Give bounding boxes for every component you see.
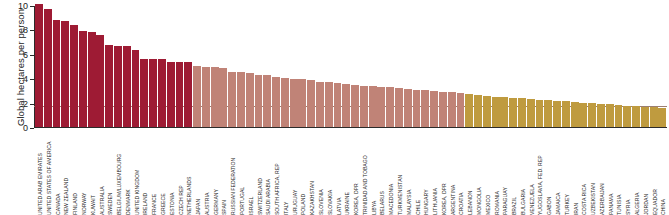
bar (132, 50, 140, 127)
bar (228, 72, 236, 128)
x-axis-category-label: BELGIUM/LUXEMBOURG (117, 154, 122, 215)
x-axis-category-label: UNITED STATES OF AMERICA (47, 142, 52, 215)
bar (360, 86, 368, 127)
bar (474, 95, 482, 127)
bar (193, 66, 201, 127)
x-axis-category-label: PANAMA (609, 194, 614, 215)
bar (219, 68, 227, 127)
x-axis-category-label: MACEDONIA (389, 184, 394, 215)
x-axis-category-label: DENMARK (126, 189, 131, 215)
y-axis-title: Global hectares per person (15, 4, 26, 132)
bar (518, 98, 526, 127)
x-axis-category-label: ARGENTINA (451, 185, 456, 215)
bar (421, 90, 429, 127)
x-axis-category-label: JAMAICA (556, 193, 561, 215)
x-axis-category-label: SAUDI ARABIA (266, 179, 271, 215)
bar (35, 4, 43, 127)
x-axis-category-label: JAPAN (196, 199, 201, 215)
bar (483, 96, 491, 127)
bar (606, 104, 614, 127)
bar (281, 78, 289, 127)
x-axis-category-label: FINLAND (73, 193, 78, 215)
x-axis-category-label: HUNGARY (424, 189, 429, 215)
bar (176, 62, 184, 127)
ecological-footprint-bar-chart: Global hectares per person 0246810 UNITE… (0, 0, 669, 215)
bar (61, 21, 69, 127)
bar (149, 59, 157, 127)
bar (255, 75, 263, 127)
bar (544, 100, 552, 127)
x-axis-category-label: TUNISIA (617, 195, 622, 215)
bar (562, 101, 570, 127)
bar (395, 88, 403, 127)
x-axis-category-label: AUSTRALIA (99, 186, 104, 215)
x-axis-category-label: BULGARIA (521, 189, 526, 215)
x-axis-category-label: AUSTRIA (205, 193, 210, 215)
bar (650, 107, 658, 127)
x-axis-category-label: UZBEKISTAN (591, 183, 596, 215)
x-axis-category-label: BELARUS (380, 191, 385, 215)
y-axis-tick-label: 6 (23, 50, 28, 60)
x-axis-category-label: UNITED ARAB EMIRATES (38, 153, 43, 215)
bar (623, 106, 631, 127)
x-axis-category-label: ITALY (284, 201, 289, 215)
bar (571, 102, 579, 127)
x-axis-category-label: UKRAINE (345, 192, 350, 215)
x-axis-category-label: LITHUANIA (433, 188, 438, 215)
bar (246, 73, 254, 127)
bar (307, 80, 315, 127)
bar (413, 90, 421, 127)
bar (88, 32, 96, 127)
x-axis-category-label: NETHERLANDS (187, 177, 192, 215)
x-axis-category-label: KOREA, DPR (354, 183, 359, 215)
bar (351, 85, 359, 127)
plot-area: 0246810 (34, 6, 667, 128)
bar (509, 98, 517, 127)
bar (500, 97, 508, 127)
y-axis-tick-label: 2 (23, 99, 28, 109)
bar (369, 86, 377, 127)
x-axis-category-label: EQUADOR (652, 189, 657, 215)
bar (404, 89, 412, 127)
x-axis-category-label: TURKEY (565, 194, 570, 215)
x-axis-category-label: TRINIDAD AND TOBAGO (363, 155, 368, 215)
x-axis-category-label: ALGERIA (635, 193, 640, 215)
bar (96, 35, 104, 127)
x-axis-category-label: CHINA (661, 199, 666, 215)
y-axis-tick-label: 10 (18, 1, 28, 11)
x-axis-category-label: VENEZUELA (530, 184, 535, 215)
x-axis-category-label: KOREA, DPR (442, 183, 447, 215)
bar (211, 67, 219, 127)
x-axis-category-label: SOUTH AFRICA, REP (275, 163, 280, 215)
bar (237, 72, 245, 127)
x-axis-category-label: ESTONIA (170, 192, 175, 215)
x-axis-category-label: GERMANY (214, 189, 219, 215)
bar (536, 100, 544, 127)
y-axis-tick-mark (30, 55, 34, 56)
x-axis-category-label: SWEDEN (108, 192, 113, 215)
bar (439, 92, 447, 127)
y-axis-tick-label: 4 (23, 74, 28, 84)
x-axis-line (34, 127, 667, 128)
bar (597, 104, 605, 127)
x-axis-category-label: PARAGUAY (503, 187, 508, 215)
bar (272, 77, 280, 127)
x-axis-category-label: LEBANON (468, 190, 473, 215)
bar (79, 31, 87, 127)
y-axis-tick-mark (30, 104, 34, 105)
bar (658, 108, 666, 127)
x-axis-category-label: KUWAIT (91, 195, 96, 215)
bar (553, 101, 561, 127)
bar (316, 82, 324, 127)
x-axis-category-label: ROMANIA (494, 191, 499, 215)
bar (105, 45, 113, 127)
x-axis-category-label: CZECH REP (178, 185, 183, 215)
x-axis-category-label: LIBYA (372, 201, 377, 215)
bar (70, 25, 78, 127)
bar (465, 94, 473, 127)
x-axis-category-label: TURKMENISTAN (398, 175, 403, 215)
bar (492, 97, 500, 128)
x-axis-category-label: IRELAND (143, 193, 148, 215)
x-axis-category-label: COSTA RICA (582, 184, 587, 215)
bar (167, 62, 175, 127)
